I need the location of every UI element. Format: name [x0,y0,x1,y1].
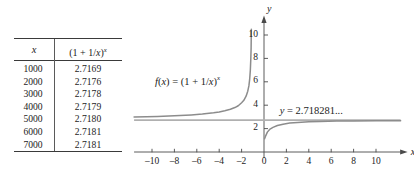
figure-container: x (1 + 1/x)x 10002.716920002.717630002.7… [0,0,414,179]
y-axis-name: y [267,3,271,14]
table-cell-value: 2.7180 [54,113,122,126]
y-tick-label: 10 [242,29,258,39]
table-rule-top [14,38,122,39]
table-cell-value: 2.7181 [54,126,122,139]
table-row: 20002.7176 [14,76,122,89]
x-axis-arrow [400,149,408,154]
table-cell-x: 2000 [14,76,52,89]
table-cell-x: 7000 [14,139,52,152]
table-header-x: x [14,41,54,58]
graph-svg [130,0,414,179]
table-row: 50002.7180 [14,113,122,126]
asymptote-label: y = 2.718281... [280,105,343,116]
y-axis-arrow [261,16,266,24]
asym-label-value: = 2.718281... [284,105,342,116]
fn-label-body2: ) = (1 + 1/ [166,75,209,86]
y-tick-label: 2 [242,122,258,132]
table-row: 60002.7181 [14,126,122,139]
table-cell-value: 2.7179 [54,101,122,114]
table-cell-x: 4000 [14,101,52,114]
table-header-fx: (1 + 1/x)x [54,41,122,61]
function-label: f(x) = (1 + 1/x)x [155,74,220,87]
fn-label-exponent: x [217,74,220,81]
y-tick-label: 4 [242,99,258,109]
table-row: 10002.7169 [14,63,122,76]
table-header-row: x (1 + 1/x)x [14,41,122,59]
x-tick-label: 10 [363,156,389,166]
table-row: 40002.7179 [14,101,122,114]
table-row: 30002.7178 [14,88,122,101]
table-cell-x: 1000 [14,63,52,76]
values-table: x (1 + 1/x)x 10002.716920002.717630002.7… [14,38,122,153]
table-cell-value: 2.7176 [54,76,122,89]
table-cell-value: 2.7178 [54,88,122,101]
header-f-open: (1 + 1/ [69,47,96,58]
y-tick-label: 8 [242,52,258,62]
header-f-exponent: x [104,46,107,53]
table-cell-value: 2.7169 [54,63,122,76]
function-curve-branch-2 [265,121,401,139]
table-cell-x: 3000 [14,88,52,101]
table-cell-x: 5000 [14,113,52,126]
x-axis-name: x [411,146,414,157]
table-row: 70002.7181 [14,139,122,152]
table-body: 10002.716920002.717630002.717840002.7179… [14,63,122,151]
table-cell-value: 2.7181 [54,139,122,152]
table-cell-x: 6000 [14,126,52,139]
y-tick-label: 6 [242,75,258,85]
graph-panel: –10–8–6–4–20246810246810xyf(x) = (1 + 1/… [130,0,414,179]
